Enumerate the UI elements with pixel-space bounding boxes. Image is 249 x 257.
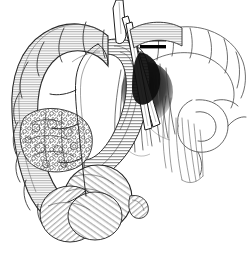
ligature-clip-lower	[140, 45, 166, 48]
anatomical-illustration-figure: Pen and ink anatomical drawing of the la…	[0, 0, 249, 257]
tumor-mass	[20, 108, 92, 171]
illustration-canvas	[0, 0, 249, 257]
